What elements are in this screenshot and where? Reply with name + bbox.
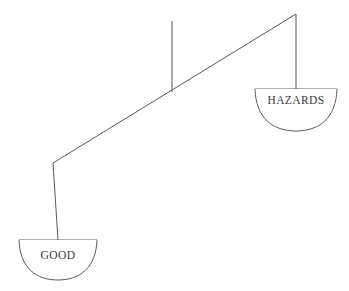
left-hanger-line (53, 163, 58, 240)
balance-scale-drawing: GOOD HAZARDS (0, 0, 349, 291)
balance-scale-figure: GOOD HAZARDS (0, 0, 349, 291)
right-pan-label: HAZARDS (267, 94, 324, 106)
left-pan-label: GOOD (41, 249, 76, 261)
